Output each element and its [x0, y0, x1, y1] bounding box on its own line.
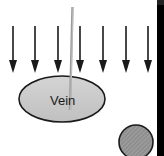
down-arrow-icon: [9, 26, 17, 73]
vein-label: Vein: [50, 93, 75, 108]
down-arrow-icon: [144, 26, 152, 73]
down-arrow-icon: [76, 26, 84, 73]
down-arrow-icon: [54, 26, 62, 73]
down-arrow-icon: [122, 26, 130, 73]
arrows-group: [9, 26, 152, 73]
diagram-canvas: [0, 0, 164, 156]
side-bar: [157, 0, 164, 156]
artery-circle: [119, 125, 153, 156]
down-arrow-icon: [31, 26, 39, 73]
down-arrow-icon: [99, 26, 107, 73]
